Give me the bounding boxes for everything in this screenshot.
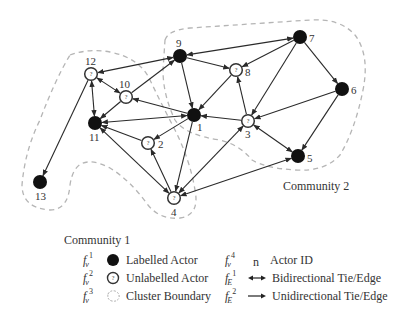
actor-node-9: 9 — [173, 37, 187, 63]
svg-text:?: ? — [90, 71, 93, 77]
actor-id-label: 11 — [89, 131, 100, 143]
legend-label: Bidirectional Tie/Edge — [272, 269, 381, 287]
edge-3-5 — [254, 125, 293, 152]
legend-unidirectional-edge: fE2 Unidirectional Tie/Edge — [225, 287, 388, 305]
edge-7-9 — [187, 38, 293, 55]
svg-text:?: ? — [173, 195, 176, 201]
svg-text:?: ? — [147, 140, 150, 146]
edge-12-11 — [92, 81, 95, 116]
labelled-actor-icon — [105, 253, 121, 267]
actor-id-label: 2 — [158, 138, 164, 150]
edge-9-8 — [187, 58, 229, 69]
unidirectional-arrow-icon — [247, 289, 267, 303]
svg-text:?: ? — [125, 94, 128, 100]
actor-id-label: 6 — [351, 84, 357, 96]
legend-bidirectional-edge: fE1 Bidirectional Tie/Edge — [225, 269, 388, 287]
svg-text:?: ? — [112, 275, 115, 281]
edge-12-13 — [43, 80, 88, 175]
legend-label: Unlabelled Actor — [126, 269, 208, 287]
actor-node-12: ?12 — [85, 55, 98, 80]
legend-right: fv4 n Actor ID fE1 Bidirectional Tie/Edg… — [225, 251, 388, 305]
edge-3-1 — [201, 116, 241, 120]
actor-id-label: 4 — [171, 206, 177, 218]
actor-id-label: 13 — [35, 190, 47, 202]
actor-node-2: ?2 — [142, 137, 164, 150]
actor-node-1: 1 — [187, 108, 203, 133]
actor-id-glyph: n — [247, 253, 265, 267]
actor-node-10: ?10 — [119, 78, 132, 103]
legend-label: Actor ID — [270, 251, 313, 269]
edge-8-1 — [199, 75, 231, 110]
edge-7-6 — [304, 42, 337, 83]
actor-node-7: 7 — [293, 30, 315, 44]
actor-id-label: 1 — [197, 121, 203, 133]
actor-node-8: ?8 — [230, 64, 251, 78]
actor-node-11: 11 — [88, 116, 102, 143]
actor-node-4: ?4 — [168, 192, 181, 218]
edge-12-10 — [97, 78, 120, 93]
legend-symbol: fE2 — [225, 283, 247, 310]
actor-node-13: 13 — [33, 175, 47, 202]
edge-7-3 — [252, 43, 297, 115]
actor-id-label: 3 — [245, 128, 251, 140]
actor-node-5: 5 — [291, 149, 313, 164]
svg-text:?: ? — [235, 67, 238, 73]
actor-node-6: 6 — [335, 82, 357, 96]
actor-id-label: 5 — [307, 152, 313, 164]
cluster-boundary-icon — [105, 289, 121, 303]
actor-id-label: 12 — [85, 55, 96, 67]
legend-symbol: fv3 — [83, 283, 105, 310]
edge-3-8 — [238, 77, 247, 114]
edge-10-9 — [132, 60, 175, 93]
edge-10-11 — [100, 101, 120, 118]
legend-label: Cluster Boundary — [126, 287, 211, 305]
actor-id-label: 7 — [309, 32, 315, 44]
edge-6-3 — [255, 91, 336, 118]
community-label-2: Community 2 — [283, 179, 349, 193]
edge-2-11 — [102, 125, 142, 140]
community-label-1: Community 1 — [64, 233, 130, 247]
legend-label: Unidirectional Tie/Edge — [272, 287, 388, 305]
legend-left: fv1 Labelled Actor fv2 ? Unlabelled Acto… — [83, 251, 211, 305]
edge-9-1 — [182, 63, 193, 108]
community-labels: Community 1Community 2 — [64, 179, 349, 247]
edge-7-8 — [242, 40, 294, 67]
actor-id-label: 8 — [245, 66, 251, 78]
actor-id-label: 9 — [176, 37, 182, 49]
svg-text:?: ? — [247, 118, 250, 124]
edge-6-5 — [302, 95, 338, 150]
actor-node-3: ?3 — [242, 115, 255, 140]
edge-5-4 — [181, 158, 292, 196]
edge-1-10 — [133, 99, 187, 113]
unlabelled-actor-icon: ? — [105, 271, 121, 285]
legend-cluster-boundary: fv3 Cluster Boundary — [83, 287, 211, 305]
bidirectional-arrow-icon — [247, 271, 267, 285]
legend-actor-id: fv4 n Actor ID — [225, 251, 388, 269]
actor-id-label: 10 — [119, 78, 131, 90]
legend-label: Labelled Actor — [126, 251, 198, 269]
